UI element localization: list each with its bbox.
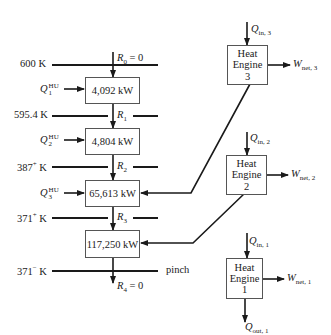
engine-label: Engine <box>232 169 262 180</box>
engine-number: 2 <box>244 181 249 192</box>
w-sub: net, 2 <box>300 174 316 182</box>
interval-box-1: 4,092 kW <box>85 77 140 104</box>
q-sub: 3 <box>49 194 59 201</box>
w-sub: net, 1 <box>296 278 312 286</box>
engine-label: Heat <box>235 262 255 273</box>
temp-value: 371 <box>17 213 33 224</box>
w-symbol: W <box>287 272 296 283</box>
temp-unit: K <box>37 213 47 224</box>
residual-index: 1 <box>123 115 127 123</box>
q-sub: in, 2 <box>258 138 270 146</box>
engine-label: Engine <box>233 59 263 70</box>
temp-unit: K <box>37 162 47 173</box>
engine-label: Engine <box>230 273 260 284</box>
q-out-1: Qout, 1 <box>245 322 269 335</box>
q-symbol: Q <box>40 134 48 145</box>
interval-box-4: 117,250 kW <box>85 230 140 258</box>
residual-r3: R3 <box>117 212 127 225</box>
temp-label-371-plus: 371+ K <box>17 212 47 225</box>
residual-value: = 0 <box>127 280 143 291</box>
interval-value: 117,250 kW <box>87 239 139 250</box>
temp-label-371-minus: 371− K <box>17 265 47 278</box>
w-net-3: Wnet, 3 <box>293 59 317 72</box>
q-in-1: Qin, 1 <box>249 236 269 249</box>
temp-label-595: 595.4 K <box>14 110 48 121</box>
q-symbol: Q <box>40 187 48 198</box>
q-in-3: Qin, 3 <box>251 24 271 37</box>
temp-label-387: 387+ K <box>17 161 47 174</box>
residual-index: 2 <box>123 166 127 174</box>
w-symbol: W <box>293 58 302 69</box>
residual-r0: R0 = 0 <box>117 53 143 66</box>
residual-r2: R2 <box>117 161 127 174</box>
q-sub: 2 <box>49 141 59 148</box>
q-symbol: Q <box>249 235 257 246</box>
temp-label-600: 600 K <box>20 59 46 70</box>
engine-number: 1 <box>242 284 247 295</box>
q-sub: in, 1 <box>257 241 269 249</box>
q-sub: out, 1 <box>253 327 269 335</box>
diagram-lines <box>0 0 331 335</box>
residual-r4: R4 = 0 <box>117 281 143 294</box>
residual-value: = 0 <box>127 52 143 63</box>
temp-value: 387 <box>17 162 33 173</box>
residual-r1: R1 <box>117 110 127 123</box>
w-net-1: Wnet, 1 <box>287 273 311 286</box>
temp-unit: K <box>37 266 47 277</box>
heat-engine-2: Heat Engine 2 <box>226 155 267 195</box>
temp-value: 371 <box>17 266 33 277</box>
heat-engine-1: Heat Engine 1 <box>226 258 263 299</box>
q-in-2: Qin, 2 <box>250 133 270 146</box>
pinch-label: pinch <box>166 265 189 276</box>
hot-utility-q2: QHU2 <box>40 134 59 148</box>
engine-label: Heat <box>238 48 258 59</box>
q-symbol: Q <box>40 83 48 94</box>
q-sub: 1 <box>49 90 59 97</box>
hot-utility-q1: QHU1 <box>40 83 59 97</box>
w-symbol: W <box>291 168 300 179</box>
residual-index: 3 <box>123 217 127 225</box>
engine-label: Heat <box>237 158 257 169</box>
heat-engine-3: Heat Engine 3 <box>227 45 268 85</box>
hot-utility-q3: QHU3 <box>40 187 59 201</box>
w-net-2: Wnet, 2 <box>291 169 315 182</box>
engine-number: 3 <box>245 71 250 82</box>
interval-value: 65,613 kW <box>89 188 136 199</box>
q-symbol: Q <box>245 321 253 332</box>
q-sub: in, 3 <box>259 29 271 37</box>
interval-value: 4,804 kW <box>92 136 133 147</box>
interval-value: 4,092 kW <box>92 85 133 96</box>
w-sub: net, 3 <box>302 64 318 72</box>
q-symbol: Q <box>250 132 258 143</box>
interval-box-3: 65,613 kW <box>85 180 140 207</box>
interval-box-2: 4,804 kW <box>85 128 140 155</box>
q-symbol: Q <box>251 23 259 34</box>
